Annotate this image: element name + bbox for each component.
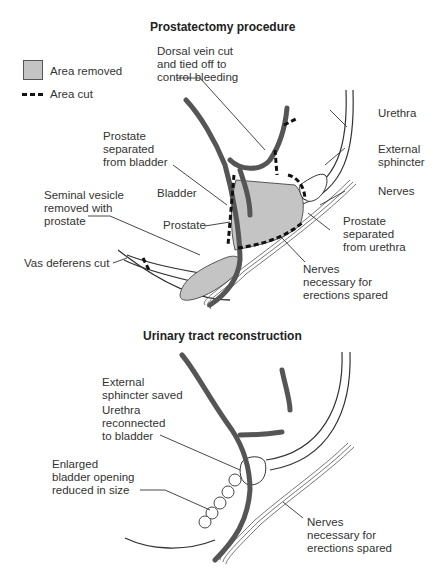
label-bladder: Bladder <box>157 187 197 200</box>
label-nerves-spared-top: Nerves necessary for erections spared <box>303 263 388 302</box>
label-dorsal-vein-cut: Dorsal vein cut and tied off to control … <box>157 45 238 84</box>
label-vas-deferens-cut: Vas deferens cut <box>24 257 109 270</box>
seminal-vesicle-area <box>180 256 241 300</box>
bladder-outline-bottom <box>125 538 215 548</box>
prostate-removed-area <box>231 180 303 250</box>
bladder-opening-stitches <box>199 474 241 528</box>
label-nerves: Nerves <box>378 185 414 198</box>
label-urethra: Urethra <box>378 107 416 120</box>
label-urethra-reconnected: Urethra reconnected to bladder <box>102 404 165 443</box>
label-seminal-vesicle: Seminal vesicle removed with prostate <box>44 189 124 228</box>
label-prostate-separated-from-urethra: Prostate separated from urethra <box>343 215 406 254</box>
label-external-sphincter: External sphincter <box>378 143 425 169</box>
label-nerves-spared-bottom: Nerves necessary for erections spared <box>307 516 392 555</box>
panel-title-reconstruction: Urinary tract reconstruction <box>143 329 302 343</box>
urethra-line-inner-bottom <box>266 352 342 460</box>
label-external-sphincter-saved: External sphincter saved <box>102 376 183 402</box>
vessels-bottom <box>182 355 290 560</box>
label-bladder-opening-reduced: Enlarged bladder opening reduced in size <box>52 458 135 497</box>
label-prostate: Prostate <box>163 219 206 232</box>
leader-lines-top <box>88 78 347 263</box>
label-prostate-separated-from-bladder: Prostate separated from bladder <box>103 130 168 169</box>
